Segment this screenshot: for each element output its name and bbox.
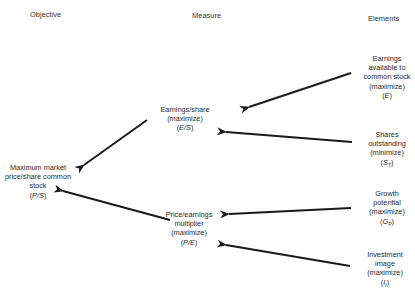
objective-node: Maximum market price/share common stock … <box>0 163 76 200</box>
growth-line-2: potential <box>354 198 415 207</box>
arrow-growth-to-pe <box>229 208 351 214</box>
objective-line-3: stock <box>0 181 76 190</box>
pe-line-2: multiplier <box>152 219 226 228</box>
arrow-image-to-pe <box>226 245 350 266</box>
image-line-2: image <box>352 259 415 268</box>
element-growth-node: Growth potential (maximize) (GP) <box>354 189 415 229</box>
eps-line-1: Earnings/share <box>148 105 222 114</box>
pe-line-1: Price/earnings <box>152 210 226 219</box>
earnings-symbol: (E) <box>352 91 415 100</box>
image-line-1: Investment <box>352 250 415 259</box>
element-earnings-node: Earnings available to common stock (maxi… <box>352 54 415 100</box>
eps-line-2: (maximize) <box>148 114 222 123</box>
arrow-eps-to-objective <box>84 120 147 165</box>
objective-line-1: Maximum market <box>0 163 76 172</box>
shares-line-1: Shares <box>354 130 415 139</box>
shares-line-3: (minimize) <box>354 148 415 157</box>
earnings-line-1: Earnings <box>352 54 415 63</box>
shares-symbol: (ST) <box>354 158 415 171</box>
arrows-layer <box>0 0 415 292</box>
measure-pe-node: Price/earnings multiplier (maximize) (P/… <box>152 210 226 247</box>
pe-symbol: (P/E) <box>152 238 226 247</box>
earnings-line-2: available to <box>352 63 415 72</box>
measure-eps-node: Earnings/share (maximize) (E/S) <box>148 105 222 133</box>
earnings-line-4: (maximize) <box>352 82 415 91</box>
shares-line-2: outstanding <box>354 139 415 148</box>
pe-line-3: (maximize) <box>152 228 226 237</box>
eps-symbol: (E/S) <box>148 123 222 132</box>
earnings-line-3: common stock <box>352 72 415 81</box>
growth-line-1: Growth <box>354 189 415 198</box>
element-shares-node: Shares outstanding (minimize) (ST) <box>354 130 415 170</box>
arrow-earnings-to-eps <box>249 73 351 107</box>
objective-symbol: (P/S) <box>0 191 76 200</box>
growth-symbol: (GP) <box>354 217 415 230</box>
element-image-node: Investment image (maximize) (II) <box>352 250 415 290</box>
arrow-shares-to-eps <box>226 132 352 142</box>
growth-line-3: (maximize) <box>354 207 415 216</box>
image-symbol: (II) <box>352 278 415 291</box>
image-line-3: (maximize) <box>352 268 415 277</box>
objective-line-2: price/share common <box>0 172 76 181</box>
